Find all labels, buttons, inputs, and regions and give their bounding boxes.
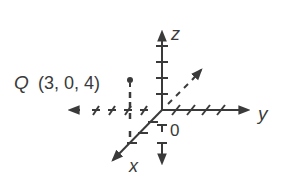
- x-axis-negative: [168, 70, 201, 104]
- point-q: [127, 77, 133, 87]
- x-axis: [113, 110, 162, 160]
- z-axis: [156, 32, 168, 110]
- origin-label: 0: [170, 121, 179, 140]
- y-axis-label: y: [256, 103, 269, 124]
- point-q-name: Q: [14, 72, 29, 93]
- z-axis-negative: [157, 125, 167, 163]
- z-axis-label: z: [170, 24, 180, 44]
- point-q-coords: (3, 0, 4): [38, 73, 100, 93]
- y-axis-negative: [70, 106, 148, 115]
- y-axis: [162, 105, 248, 115]
- x-axis-label: x: [128, 156, 139, 176]
- coordinate-diagram: z y x 0 Q (3, 0, 4): [0, 0, 285, 178]
